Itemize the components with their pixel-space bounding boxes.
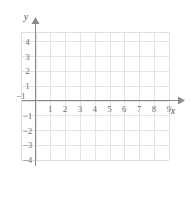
x-tick-label: 6 bbox=[122, 104, 127, 114]
y-tick-label: 2 bbox=[25, 66, 30, 76]
y-tick-label: −1 bbox=[23, 111, 33, 121]
y-tick-label: 4 bbox=[25, 37, 30, 47]
coordinate-grid-figure: −1123456789 4321−1−2−3−4 x y bbox=[0, 0, 193, 201]
x-tick-label: 8 bbox=[152, 104, 157, 114]
x-tick-label: 4 bbox=[92, 104, 97, 114]
x-axis-label: x bbox=[170, 105, 176, 116]
x-tick-label: −1 bbox=[16, 91, 26, 101]
y-tick-label: −4 bbox=[23, 155, 33, 165]
y-tick-label: −3 bbox=[23, 140, 33, 150]
x-tick-label: 3 bbox=[78, 104, 83, 114]
x-tick-label: 1 bbox=[48, 104, 53, 114]
y-tick-label: 3 bbox=[25, 52, 30, 62]
x-tick-label: 5 bbox=[107, 104, 112, 114]
cartesian-plane-svg: −1123456789 4321−1−2−3−4 x y bbox=[0, 0, 193, 201]
y-tick-label: −2 bbox=[23, 126, 33, 136]
y-tick-label: 1 bbox=[25, 81, 30, 91]
x-tick-label: 2 bbox=[63, 104, 68, 114]
y-axis-label: y bbox=[23, 11, 29, 22]
x-tick-label: 7 bbox=[137, 104, 142, 114]
